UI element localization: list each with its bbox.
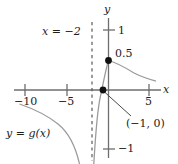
point-coordinate-label: (−1, 0) — [126, 118, 165, 129]
y-tick-label-neg-one: −1 — [118, 143, 134, 154]
asymptote-label: x = −2 — [42, 26, 81, 37]
function-label: y = g(x) — [6, 128, 50, 139]
x-axis-label: x — [163, 84, 169, 95]
point-value-label-half: 0.5 — [115, 48, 133, 59]
graph-figure: y x 1 −1 0.5 −10 −5 5 x = −2 y = g(x) (−… — [0, 0, 178, 164]
point-marker-minus-one — [100, 87, 107, 94]
x-tick-label-neg10: −10 — [14, 96, 37, 107]
x-tick-label-5: 5 — [145, 96, 152, 107]
x-tick-label-neg5: −5 — [58, 96, 74, 107]
y-tick-label-one: 1 — [118, 25, 125, 36]
y-axis-label: y — [104, 4, 110, 15]
point-marker-half — [105, 57, 112, 64]
